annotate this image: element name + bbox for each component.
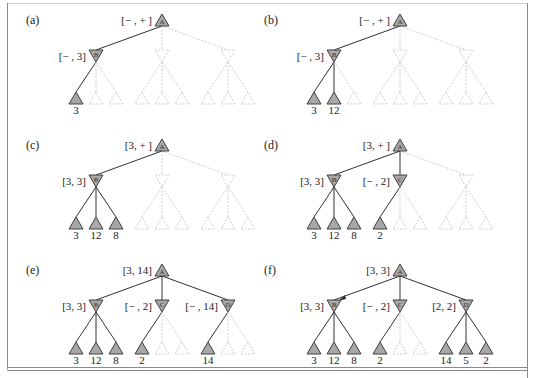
edge-root-to-min: [400, 276, 466, 300]
leaf-value: 2: [377, 354, 383, 366]
edge-min-to-leaf: [446, 62, 466, 92]
leaf-value: 12: [329, 104, 340, 116]
panel-b: (b)A[− , + ]B[− , 3]312: [264, 13, 493, 116]
leaf-node: [89, 92, 103, 104]
leaf-value: 2: [139, 354, 145, 366]
edge-min-to-leaf: [446, 187, 466, 217]
edge-min-to-leaf: [208, 187, 228, 217]
leaf-value: 3: [311, 354, 317, 366]
leaf-node: [201, 342, 215, 354]
leaf-node: [393, 217, 407, 229]
leaf-node: [413, 217, 427, 229]
leaf-node: [241, 217, 255, 229]
panel-label: (a): [26, 13, 39, 27]
node-letter: B: [94, 51, 99, 59]
edge-min-to-leaf: [228, 187, 248, 217]
leaf-node: [307, 217, 321, 229]
edge-min-to-leaf: [380, 187, 400, 217]
leaf-value: 8: [113, 229, 119, 241]
panel-e: (e)A[3, 14]B[3, 3]3128C[− , 2]2D[− , 14]…: [26, 263, 255, 366]
node-letter: D: [225, 301, 230, 309]
edge-min-to-leaf: [208, 62, 228, 92]
leaf-node: [307, 342, 321, 354]
leaf-node: [175, 217, 189, 229]
leaf-value: 5: [463, 354, 469, 366]
leaf-node: [413, 342, 427, 354]
leaf-node: [109, 342, 123, 354]
edge-root-to-min: [400, 151, 466, 175]
edge-min-to-leaf: [96, 187, 116, 217]
edge-min-to-leaf: [334, 187, 354, 217]
panel-label: (f): [264, 263, 276, 277]
leaf-node: [221, 342, 235, 354]
panel-label: (d): [264, 138, 278, 152]
edge-min-to-leaf: [162, 187, 182, 217]
node-letter: B: [94, 176, 99, 184]
leaf-node: [135, 92, 149, 104]
leaf-node: [221, 217, 235, 229]
edge-root-to-min: [96, 151, 162, 175]
leaf-value: 3: [311, 229, 317, 241]
edge-min-to-leaf: [162, 312, 182, 342]
node-letter: A: [397, 18, 402, 26]
leaf-value: 14: [203, 354, 215, 366]
leaf-node: [459, 92, 473, 104]
leaf-value: 3: [73, 229, 79, 241]
leaf-value: 8: [113, 354, 119, 366]
panel-label: (c): [26, 138, 39, 152]
leaf-node: [155, 92, 169, 104]
leaf-node: [479, 92, 493, 104]
panel-c: (c)A[3, + ]B[3, 3]3128: [26, 138, 255, 241]
leaf-node: [413, 92, 427, 104]
leaf-node: [327, 217, 341, 229]
leaf-node: [373, 92, 387, 104]
leaf-node: [175, 92, 189, 104]
edge-min-to-leaf: [380, 62, 400, 92]
leaf-node: [373, 217, 387, 229]
edge-root-to-min: [162, 276, 228, 300]
min-node: [221, 50, 235, 62]
edge-min-to-leaf: [142, 312, 162, 342]
min-node-interval: [3, 3]: [300, 175, 324, 187]
leaf-value: 12: [329, 229, 340, 241]
edge-min-to-leaf: [142, 62, 162, 92]
leaf-node: [439, 92, 453, 104]
panel-a: (a)A[− , + ]B[− , 3]3: [26, 13, 255, 116]
edge-min-to-leaf: [400, 312, 420, 342]
edge-min-to-leaf: [400, 187, 420, 217]
leaf-node: [109, 92, 123, 104]
leaf-node: [459, 217, 473, 229]
leaf-node: [89, 342, 103, 354]
leaf-node: [479, 217, 493, 229]
root-interval: [3, 14]: [123, 264, 152, 276]
edge-min-to-leaf: [466, 62, 486, 92]
node-letter: D: [463, 301, 468, 309]
leaf-node: [201, 92, 215, 104]
min-node-interval: [3, 3]: [300, 300, 324, 312]
panel-f: (f)A[3, 3]B[3, 3]3128C[− , 2]2D[2, 2]145…: [264, 263, 493, 366]
node-letter: A: [159, 143, 164, 151]
leaf-node: [373, 342, 387, 354]
edge-min-to-leaf: [314, 312, 334, 342]
min-node-interval: [− , 2]: [125, 300, 152, 312]
edge-min-to-leaf: [380, 312, 400, 342]
min-node: [155, 50, 169, 62]
root-interval: [− , + ]: [359, 14, 390, 26]
node-letter: C: [398, 176, 403, 184]
edge-root-to-min: [96, 276, 162, 300]
edge-min-to-leaf: [314, 62, 334, 92]
leaf-node: [347, 92, 361, 104]
min-node-interval: [3, 3]: [62, 175, 86, 187]
leaf-node: [155, 342, 169, 354]
leaf-value: 12: [91, 229, 102, 241]
panel-label: (e): [26, 263, 39, 277]
leaf-value: 8: [351, 229, 357, 241]
leaf-node: [479, 342, 493, 354]
panel-d: (d)A[3, + ]B[3, 3]3128C[− , 2]2: [264, 138, 493, 241]
node-letter: B: [332, 301, 337, 309]
alpha-beta-diagram: (a)A[− , + ]B[− , 3]3(b)A[− , + ]B[− , 3…: [0, 0, 534, 378]
leaf-node: [89, 217, 103, 229]
root-interval: [3, 3]: [366, 264, 390, 276]
node-letter: A: [397, 143, 402, 151]
min-node-interval: [3, 3]: [62, 300, 86, 312]
